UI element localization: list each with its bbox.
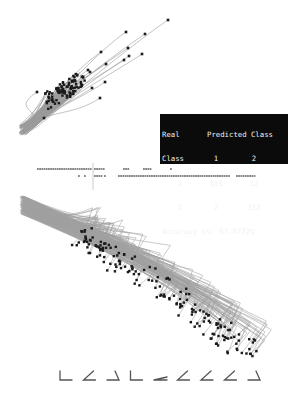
matrix-row: 2 2 152: [162, 204, 286, 212]
col-label-2: 2: [234, 155, 274, 163]
header-row: Real Predicted Class: [162, 131, 286, 139]
predicted-class-header: Predicted Class: [198, 131, 282, 139]
cell: 152: [234, 204, 274, 212]
class-label: Class: [162, 155, 198, 163]
cell: 313: [198, 180, 234, 188]
col-label-1: 1: [198, 155, 234, 163]
row-label: 1: [162, 180, 198, 188]
accuracy-row: Accuracy is: 97.0772%: [162, 228, 286, 236]
class-label-row: Class 1 2: [162, 155, 286, 163]
accuracy-text: Accuracy is: 97.0772%: [162, 228, 254, 236]
row-label: 2: [162, 204, 198, 212]
real-header: Real: [162, 131, 198, 139]
upper-data-points: [36, 19, 170, 120]
glyph-row: [60, 371, 260, 380]
cell: 12: [234, 180, 274, 188]
matrix-row: 1 313 12: [162, 180, 286, 188]
confusion-matrix-table: Real Predicted Class Class 1 2 1 313 12 …: [160, 114, 288, 164]
upper-trajectory-bundle: [19, 20, 168, 135]
lower-data-points: [71, 227, 258, 357]
cell: 2: [198, 204, 234, 212]
